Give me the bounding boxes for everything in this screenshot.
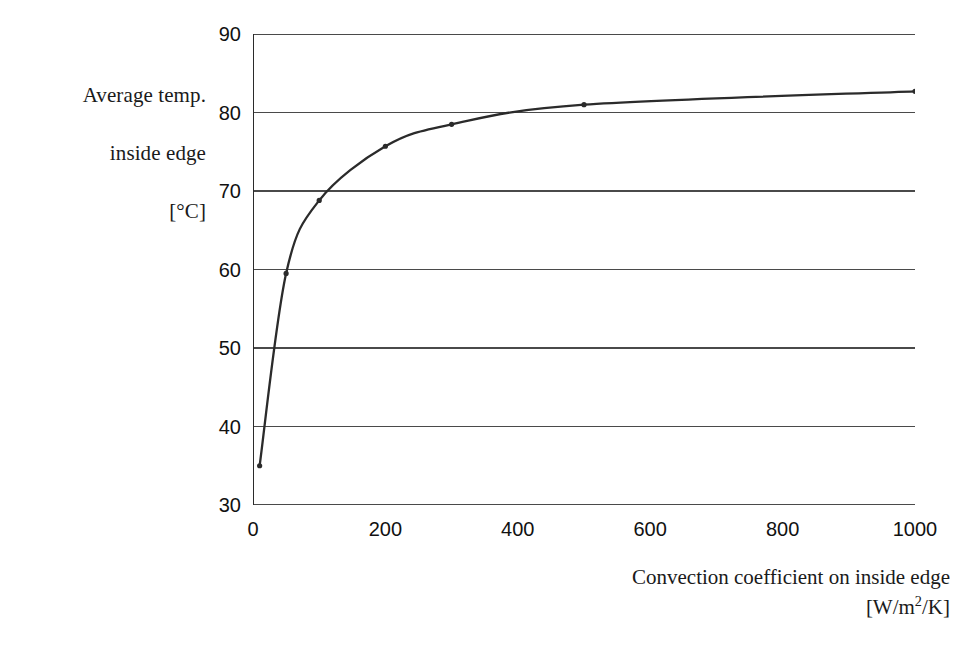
plot-svg <box>253 34 915 505</box>
y-tick-label: 90 <box>195 24 241 44</box>
y-tick-label: 50 <box>195 338 241 358</box>
x-tick-label: 800 <box>743 519 823 539</box>
x-axis-title-main: Convection coefficient on inside edge <box>632 565 950 589</box>
series-markers <box>257 89 915 469</box>
y-tick-label: 40 <box>195 417 241 437</box>
series-line <box>260 91 915 465</box>
y-axis-title-line-1: Average temp. <box>83 83 206 107</box>
x-axis-unit-prefix: [W/m <box>866 595 915 619</box>
x-tick-label: 600 <box>610 519 690 539</box>
plot-area <box>253 34 915 505</box>
x-tick-label: 400 <box>478 519 558 539</box>
x-axis-title: Convection coefficient on inside edge [W… <box>430 562 950 622</box>
y-tick-label: 80 <box>195 103 241 123</box>
y-axis-title: Average temp. inside edge [°C] <box>10 52 206 255</box>
y-tick-label: 70 <box>195 181 241 201</box>
x-axis-unit: [W/m2/K] <box>430 592 950 622</box>
x-axis-unit-exponent: 2 <box>915 593 922 609</box>
chart-figure: Average temp. inside edge [°C] Convectio… <box>0 0 968 656</box>
y-tick-label: 60 <box>195 260 241 280</box>
x-axis-unit-suffix: /K] <box>922 595 950 619</box>
y-axis-title-line-2: inside edge <box>110 141 206 165</box>
y-tick-label: 30 <box>195 495 241 515</box>
y-axis-unit: [°C] <box>10 197 206 226</box>
x-tick-label: 1000 <box>875 519 955 539</box>
x-tick-label: 0 <box>213 519 293 539</box>
x-tick-label: 200 <box>345 519 425 539</box>
